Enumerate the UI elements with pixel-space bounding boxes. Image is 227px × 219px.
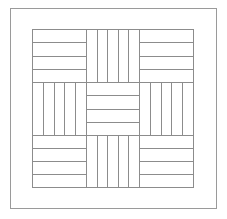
quilt-block-drawing — [0, 0, 227, 219]
quilt-diagram-canvas — [0, 0, 227, 219]
